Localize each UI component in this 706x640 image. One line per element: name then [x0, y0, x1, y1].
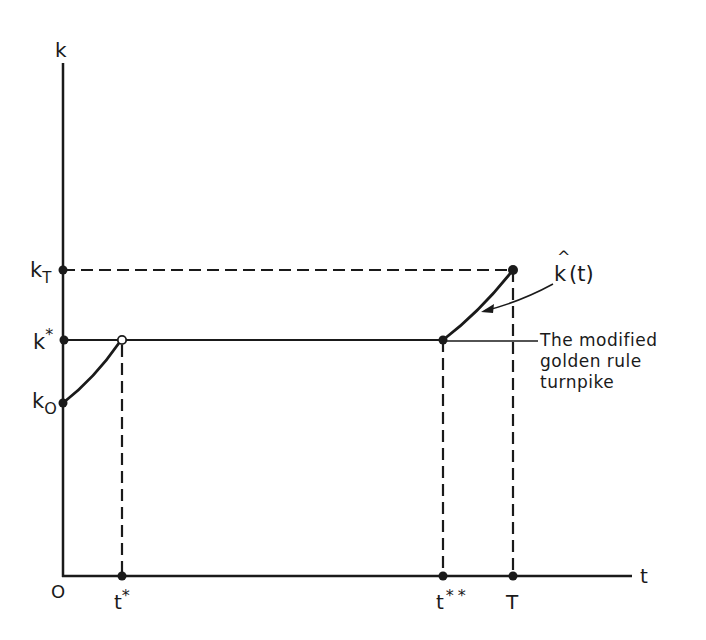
k0-label: kO	[32, 389, 57, 418]
tstar-point	[118, 572, 127, 581]
kT-point	[59, 266, 68, 275]
kstar-point	[60, 336, 69, 345]
terminal-point	[508, 265, 518, 275]
annotation-line-3: turnpike	[540, 372, 614, 392]
turnpike-entry-open-point	[118, 336, 126, 344]
tstar-label: t*	[114, 586, 130, 614]
annotation-line-2: golden rule	[540, 351, 642, 371]
T-label: T	[505, 590, 519, 614]
x-axis-label: t	[640, 564, 648, 588]
origin-label: O	[51, 581, 65, 602]
annotation-line-1: The modified	[539, 330, 657, 350]
tstarstar-label: t**	[436, 586, 470, 614]
k0-point	[59, 399, 68, 408]
tstarstar-axis-point	[439, 572, 448, 581]
curve-label-base: k	[554, 262, 567, 286]
kT-label: kT	[30, 258, 52, 287]
curve-label-arrow	[484, 284, 553, 311]
path-k0-to-kstar	[63, 343, 119, 403]
y-axis-label: k	[55, 38, 67, 62]
T-axis-point	[509, 572, 518, 581]
kstar-label: k*	[33, 325, 53, 354]
turnpike-diagram: k t O kT k* kO t* t** T ^ k (t) The modi…	[0, 0, 706, 640]
turnpike-exit-point	[439, 336, 448, 345]
curve-label-arg: (t)	[569, 262, 594, 286]
